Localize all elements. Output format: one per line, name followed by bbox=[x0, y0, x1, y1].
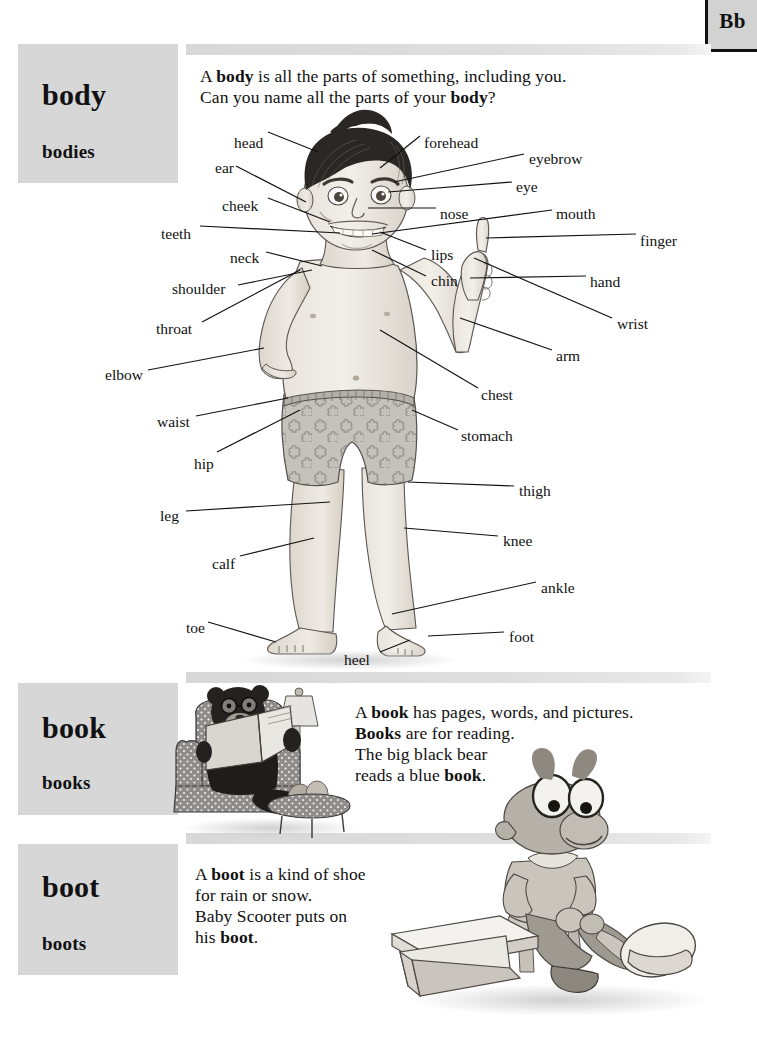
entry-band-boot bbox=[186, 833, 711, 844]
body-part-label-heel: heel bbox=[344, 652, 370, 668]
definition-text: his bbox=[195, 927, 220, 947]
body-part-label-mouth: mouth bbox=[556, 206, 596, 222]
definition-text: Baby Scooter puts on bbox=[195, 906, 347, 926]
headword-box-body: body bodies bbox=[18, 44, 178, 183]
definition-text: are for reading. bbox=[401, 723, 514, 743]
definition-keyword: book bbox=[444, 765, 481, 785]
body-part-label-hand: hand bbox=[590, 274, 620, 290]
entry-band-body bbox=[186, 44, 711, 55]
body-part-label-leg: leg bbox=[160, 508, 179, 524]
body-part-label-teeth: teeth bbox=[161, 226, 191, 242]
headword-book: book bbox=[42, 713, 178, 743]
definition-text: ? bbox=[488, 87, 496, 107]
body-part-label-head: head bbox=[234, 135, 263, 151]
definition-book: A book has pages, words, and pictures. B… bbox=[355, 702, 755, 786]
body-part-label-thigh: thigh bbox=[519, 483, 551, 499]
definition-text: The big black bear bbox=[355, 744, 488, 764]
body-part-label-stomach: stomach bbox=[461, 428, 513, 444]
definition-keyword: boot bbox=[220, 927, 253, 947]
headword-plural-boots: boots bbox=[42, 934, 178, 953]
definition-line: A boot is a kind of shoe bbox=[195, 864, 535, 885]
definition-text: . bbox=[482, 765, 486, 785]
boy-figure-illustration bbox=[240, 110, 492, 670]
body-part-label-toe: toe bbox=[186, 620, 205, 636]
letter-tab-label: Bb bbox=[719, 9, 746, 34]
definition-line: A body is all the parts of something, in… bbox=[200, 66, 720, 87]
definition-keyword: body bbox=[216, 66, 253, 86]
headword-box-boot: boot boots bbox=[18, 844, 178, 975]
body-part-label-neck: neck bbox=[230, 250, 259, 266]
headword-plural-bodies: bodies bbox=[42, 142, 178, 161]
body-part-label-chin: chin bbox=[431, 273, 458, 289]
body-part-label-eye: eye bbox=[516, 179, 538, 195]
body-part-label-finger: finger bbox=[640, 233, 677, 249]
definition-text: for rain or snow. bbox=[195, 885, 312, 905]
letter-tab-bb[interactable]: Bb bbox=[705, 0, 757, 52]
entry-band-book bbox=[186, 672, 711, 683]
definition-line: Baby Scooter puts on bbox=[195, 906, 535, 927]
body-part-label-waist: waist bbox=[157, 414, 190, 430]
definition-line: Books are for reading. bbox=[355, 723, 755, 744]
definition-text: A bbox=[355, 702, 371, 722]
body-part-label-elbow: elbow bbox=[105, 367, 143, 383]
definition-text: A bbox=[200, 66, 216, 86]
body-part-label-wrist: wrist bbox=[617, 316, 648, 332]
body-part-label-nose: nose bbox=[440, 206, 468, 222]
definition-line: his boot. bbox=[195, 927, 535, 948]
body-part-label-arm: arm bbox=[556, 348, 580, 364]
definition-line: A book has pages, words, and pictures. bbox=[355, 702, 755, 723]
definition-text: . bbox=[254, 927, 258, 947]
body-part-label-calf: calf bbox=[212, 556, 235, 572]
definition-text: reads a blue bbox=[355, 765, 444, 785]
body-part-label-ear: ear bbox=[215, 160, 234, 176]
bear-reading-illustration bbox=[174, 685, 358, 838]
definition-keyword: body bbox=[450, 87, 487, 107]
dictionary-page: Bb body bodies A body is all the parts o… bbox=[0, 0, 757, 1042]
definition-line: reads a blue book. bbox=[355, 765, 755, 786]
definition-text: Can you name all the parts of your bbox=[200, 87, 450, 107]
headword-body: body bbox=[42, 80, 178, 110]
headword-boot: boot bbox=[42, 872, 178, 902]
definition-keyword: boot bbox=[211, 864, 244, 884]
body-part-label-lips: lips bbox=[431, 247, 453, 263]
definition-text: A bbox=[195, 864, 211, 884]
headword-box-book: book books bbox=[18, 683, 178, 815]
body-part-label-cheek: cheek bbox=[222, 198, 258, 214]
body-part-label-foot: foot bbox=[509, 629, 534, 645]
definition-line: for rain or snow. bbox=[195, 885, 535, 906]
definition-text: has pages, words, and pictures. bbox=[409, 702, 634, 722]
definition-text: is all the parts of something, including… bbox=[254, 66, 567, 86]
definition-keyword: Books bbox=[355, 723, 401, 743]
headword-plural-books: books bbox=[42, 773, 178, 792]
body-part-label-chest: chest bbox=[481, 387, 513, 403]
body-part-label-throat: throat bbox=[156, 321, 192, 337]
body-part-label-knee: knee bbox=[503, 533, 532, 549]
definition-keyword: book bbox=[371, 702, 408, 722]
body-part-label-hip: hip bbox=[194, 456, 214, 472]
definition-boot: A boot is a kind of shoe for rain or sno… bbox=[195, 864, 535, 948]
body-part-label-ankle: ankle bbox=[541, 580, 575, 596]
definition-line: The big black bear bbox=[355, 744, 755, 765]
body-part-label-shoulder: shoulder bbox=[172, 281, 225, 297]
definition-line: Can you name all the parts of your body? bbox=[200, 87, 720, 108]
definition-text: is a kind of shoe bbox=[245, 864, 366, 884]
body-part-label-eyebrow: eyebrow bbox=[529, 151, 582, 167]
definition-body: A body is all the parts of something, in… bbox=[200, 66, 720, 108]
body-part-label-forehead: forehead bbox=[424, 135, 478, 151]
